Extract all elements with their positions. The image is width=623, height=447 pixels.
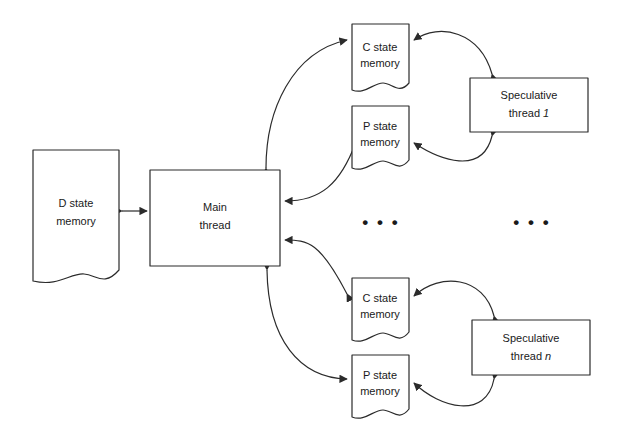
- edge-main-thread-to-p-state-bottom: [267, 270, 347, 379]
- edge-main-thread-to-c-state-top: [266, 40, 347, 168]
- c-state-memory-top-label-line2: memory: [360, 57, 400, 69]
- node-speculative-thread-1[interactable]: Speculative thread 1: [470, 78, 588, 132]
- c-state-memory-bottom-label-line1: C state: [363, 292, 398, 304]
- main-thread-label-line1: Main: [203, 201, 227, 213]
- speculative-thread-1-shape: [470, 78, 588, 132]
- speculative-thread-n-label-line2: thread n: [511, 350, 551, 362]
- ellipsis-middle-left: • • •: [362, 213, 399, 232]
- speculative-thread-1-index: 1: [543, 107, 549, 119]
- speculative-thread-n-label-line2-text: thread: [511, 350, 545, 362]
- c-state-memory-bottom-label-line2: memory: [360, 308, 400, 320]
- p-state-memory-top-label-line2: memory: [360, 136, 400, 148]
- edge-c-state-bottom-to-main-thread: [285, 240, 347, 294]
- speculative-thread-1-label-line2-text: thread: [509, 107, 543, 119]
- p-state-memory-bottom-label-line2: memory: [360, 385, 400, 397]
- node-p-state-memory-bottom[interactable]: P state memory: [352, 355, 409, 418]
- d-state-memory-label-line2: memory: [56, 215, 96, 227]
- edge-spec-thread-1-to-p-state-top: [414, 136, 492, 161]
- speculative-thread-n-label-line1: Speculative: [503, 332, 560, 344]
- speculative-thread-n-index: n: [545, 350, 551, 362]
- ellipsis-middle-right: • • •: [513, 213, 550, 232]
- node-main-thread[interactable]: Main thread: [150, 170, 280, 266]
- diagram-svg: D state memory Main thread C state memor…: [0, 0, 623, 447]
- p-state-memory-bottom-label-line1: P state: [363, 369, 397, 381]
- main-thread-label-line2: thread: [199, 219, 230, 231]
- edge-spec-thread-n-to-p-state-bottom: [414, 379, 494, 406]
- node-c-state-memory-top[interactable]: C state memory: [352, 24, 409, 91]
- speculative-thread-1-label-line2: thread 1: [509, 107, 549, 119]
- node-c-state-memory-bottom[interactable]: C state memory: [352, 278, 409, 341]
- edge-p-state-top-to-main-thread: [285, 142, 356, 201]
- node-speculative-thread-n[interactable]: Speculative thread n: [472, 320, 590, 375]
- node-d-state-memory[interactable]: D state memory: [33, 150, 119, 283]
- edge-spec-thread-1-to-c-state-top: [414, 31, 492, 74]
- speculative-thread-n-shape: [472, 320, 590, 375]
- speculative-thread-1-label-line1: Speculative: [501, 89, 558, 101]
- c-state-memory-top-label-line1: C state: [363, 41, 398, 53]
- p-state-memory-top-label-line1: P state: [363, 120, 397, 132]
- diagram-canvas: D state memory Main thread C state memor…: [0, 0, 623, 447]
- node-p-state-memory-top[interactable]: P state memory: [352, 106, 409, 169]
- edge-spec-thread-n-to-c-state-bottom: [414, 281, 494, 316]
- d-state-memory-label-line1: D state: [59, 197, 94, 209]
